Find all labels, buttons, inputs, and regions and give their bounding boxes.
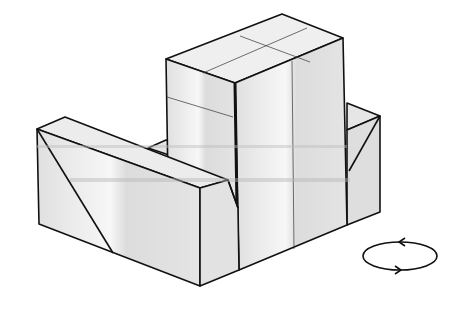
right-block [347,103,380,225]
diagram-canvas: Isometric view of stepped block with rot… [0,0,464,326]
rotation-ellipse [363,242,437,270]
shading-band [70,178,350,182]
rotate-horizontal-icon [363,238,437,274]
shading-band [37,145,347,148]
right-block-front-face [347,116,380,225]
block-diagram [0,0,464,326]
